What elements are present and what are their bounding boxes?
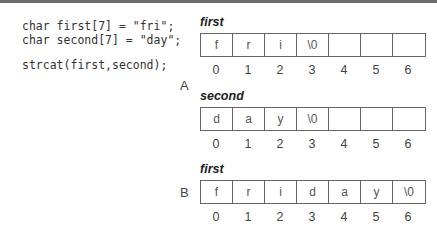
index-label: 5 — [360, 63, 392, 77]
index-label: 2 — [264, 210, 296, 224]
index-label: 6 — [392, 137, 424, 151]
index-label: 5 — [360, 137, 392, 151]
index-label: 3 — [296, 137, 328, 151]
index-label: 2 — [264, 63, 296, 77]
array-cell: \0 — [297, 108, 329, 130]
array-name-first-after: first — [200, 162, 224, 176]
code-line-1: char first[7] = "fri"; — [22, 19, 174, 33]
array-cell: d — [297, 181, 329, 203]
index-label: 0 — [200, 137, 232, 151]
array-name-second: second — [200, 89, 244, 103]
index-label: 4 — [328, 210, 360, 224]
array-cell: \0 — [297, 34, 329, 56]
top-border — [0, 0, 437, 3]
index-label: 4 — [328, 63, 360, 77]
index-label: 1 — [232, 210, 264, 224]
index-label: 1 — [232, 63, 264, 77]
array-cell: d — [201, 108, 233, 130]
section-label-a: A — [180, 78, 189, 93]
array-second: d a y \0 — [200, 107, 426, 131]
index-label: 1 — [232, 137, 264, 151]
array-cell — [393, 108, 425, 130]
index-label: 3 — [296, 63, 328, 77]
array-indices: 0 1 2 3 4 5 6 — [200, 210, 424, 224]
array-cell — [329, 34, 361, 56]
index-label: 3 — [296, 210, 328, 224]
index-label: 0 — [200, 63, 232, 77]
array-cell: y — [265, 108, 297, 130]
array-cell: r — [233, 34, 265, 56]
array-cell — [329, 108, 361, 130]
index-label: 5 — [360, 210, 392, 224]
array-first-after: f r i d a y \0 — [200, 180, 426, 204]
array-indices: 0 1 2 3 4 5 6 — [200, 137, 424, 151]
array-cell — [361, 108, 393, 130]
array-cell: f — [201, 34, 233, 56]
code-line-4: strcat(first,second); — [22, 58, 167, 72]
array-cell: y — [361, 181, 393, 203]
index-label: 0 — [200, 210, 232, 224]
code-line-2: char second[7] = "day"; — [22, 33, 181, 47]
array-cell: r — [233, 181, 265, 203]
index-label: 6 — [392, 63, 424, 77]
index-label: 4 — [328, 137, 360, 151]
array-cell: a — [233, 108, 265, 130]
array-cell: \0 — [393, 181, 425, 203]
index-label: 2 — [264, 137, 296, 151]
array-cell: a — [329, 181, 361, 203]
array-cell — [361, 34, 393, 56]
array-first-before: f r i \0 — [200, 33, 426, 57]
section-label-b: B — [180, 185, 189, 200]
array-cell: f — [201, 181, 233, 203]
array-name-first: first — [200, 15, 224, 29]
array-cell: i — [265, 181, 297, 203]
index-label: 6 — [392, 210, 424, 224]
array-cell — [393, 34, 425, 56]
array-indices: 0 1 2 3 4 5 6 — [200, 63, 424, 77]
array-cell: i — [265, 34, 297, 56]
